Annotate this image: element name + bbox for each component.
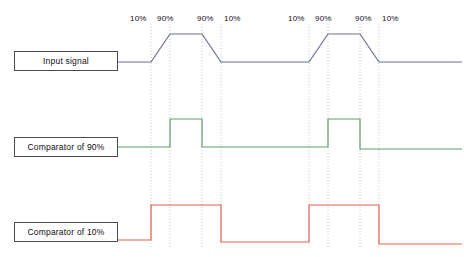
timing-diagram-svg — [0, 0, 464, 257]
percent-annotation-7: 10% — [382, 15, 399, 23]
percent-annotation-4: 10% — [288, 15, 305, 23]
diagram-canvas: 10%90%90%10%10%90%90%10% Input signalCom… — [0, 0, 464, 257]
percent-annotation-3: 10% — [224, 15, 241, 23]
label-box-comparator-10: Comparator of 10% — [14, 222, 118, 242]
signal-traces-group — [118, 34, 462, 244]
percent-annotation-5: 90% — [315, 15, 332, 23]
percent-annotation-0: 10% — [130, 15, 147, 23]
percent-annotation-2: 90% — [197, 15, 214, 23]
percent-annotation-6: 90% — [355, 15, 372, 23]
label-box-comparator-90: Comparator of 90% — [14, 137, 118, 157]
label-box-input-signal: Input signal — [14, 51, 118, 71]
percent-annotation-1: 90% — [157, 15, 174, 23]
comparator-90-trace — [118, 119, 462, 149]
guide-lines-group — [151, 24, 379, 249]
